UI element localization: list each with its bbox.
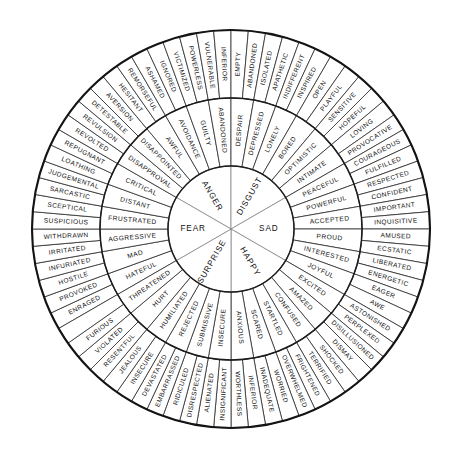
emotion-wheel-diagram: ENRAGEDPROVOKEDHOSTILEINFURIATEDIRRITATE…: [0, 0, 462, 460]
emotion-wheel-container: ENRAGEDPROVOKEDHOSTILEINFURIATEDIRRITATE…: [0, 0, 462, 460]
